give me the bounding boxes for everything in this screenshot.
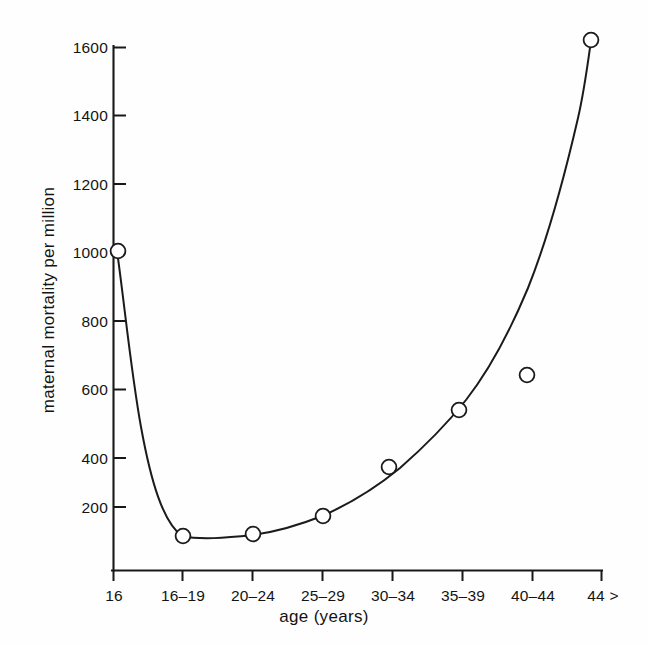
x-tick-label-25-29: 25–29 [283,587,363,605]
x-tick-label-40-44: 40–44 [493,587,573,605]
data-point-35-39 [452,403,467,418]
data-point-25-29 [316,509,331,524]
y-tick-label-200: 200 [44,499,108,517]
chart-figure: 1600 1400 1200 1000 800 600 400 200 16 1… [0,0,648,646]
data-point-40-44 [520,368,535,383]
x-axis-title: age (years) [0,607,648,627]
y-tick-label-400: 400 [44,450,108,468]
x-tick-label-44-plus: 44 > [567,587,639,605]
data-point-30-34 [382,460,397,475]
y-axis-title: maternal mortality per million [39,155,59,445]
y-tick-label-1400: 1400 [44,107,108,125]
data-point-20-24 [246,527,261,542]
data-point-44-plus [584,33,599,48]
data-point-markers [111,33,599,544]
mortality-curve [117,44,591,538]
data-point-16-19 [176,529,191,544]
x-tick-label-16: 16 [90,587,138,605]
x-tick-label-30-34: 30–34 [353,587,433,605]
x-tick-label-35-39: 35–39 [423,587,503,605]
data-point-16 [111,244,126,259]
x-tick-label-20-24: 20–24 [213,587,293,605]
y-tick-label-1600: 1600 [44,39,108,57]
x-tick-label-16-19: 16–19 [143,587,223,605]
x-axis-ticks [114,571,602,582]
